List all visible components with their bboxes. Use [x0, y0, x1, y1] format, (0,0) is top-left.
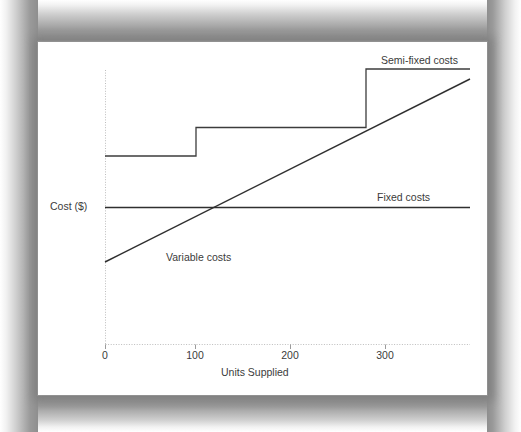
x-tick-label-300: 300	[365, 349, 405, 361]
series-label-semi-fixed-costs: Semi-fixed costs	[381, 54, 458, 66]
x-tick-label-200: 200	[270, 349, 310, 361]
y-axis-label: Cost ($)	[50, 200, 87, 212]
x-tick-label-100: 100	[175, 349, 215, 361]
chart-card	[38, 42, 487, 395]
x-axis-label: Units Supplied	[221, 366, 289, 378]
x-tick-label-0: 0	[85, 349, 125, 361]
chart-screenshot: Cost ($) Units Supplied Semi-fixed costs…	[0, 0, 521, 432]
series-label-fixed-costs: Fixed costs	[377, 191, 430, 203]
series-label-variable-costs: Variable costs	[166, 251, 231, 263]
